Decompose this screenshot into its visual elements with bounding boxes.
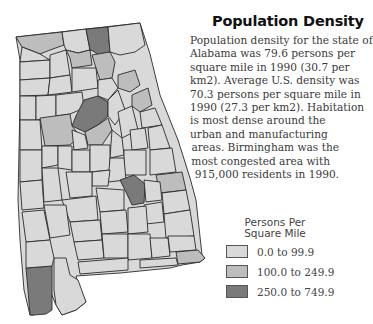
county-lowndes — [96, 188, 124, 212]
county-marengo — [42, 168, 62, 202]
county-cullman — [72, 68, 98, 92]
desc-line: Population density for the state of — [190, 34, 340, 47]
county-greene — [42, 146, 58, 168]
description-text: Population density for the state of Alab… — [190, 34, 340, 181]
desc-line: 915,000 residents in 1990. — [190, 168, 340, 181]
legend-item-high: 250.0 to 749.9 — [226, 285, 334, 298]
desc-line: most congested area with — [190, 155, 340, 168]
legend-swatch-mid — [226, 265, 248, 278]
legend-label: 250.0 to 749.9 — [257, 286, 334, 298]
desc-line: Alabama was 79.6 persons per — [190, 47, 340, 60]
legend-item-mid: 100.0 to 249.9 — [226, 265, 334, 278]
desc-line: 70.3 persons per square mile in — [190, 88, 340, 101]
county-coffee — [128, 234, 152, 260]
county-macon — [144, 180, 162, 202]
county-henry — [168, 236, 196, 252]
county-chambers — [150, 148, 176, 175]
county-pike — [128, 206, 148, 234]
desc-line: km2). Average U.S. density was — [190, 74, 340, 87]
county-butler — [100, 210, 128, 234]
county-limestone — [62, 29, 90, 53]
desc-line: 1990 (27.3 per km2). Habitation — [190, 101, 340, 114]
desc-line: areas. Birmingham was the — [190, 141, 340, 154]
county-clay — [130, 128, 148, 150]
county-autauga — [92, 170, 110, 186]
legend-title: Persons Per Square Mile — [225, 217, 325, 239]
county-lamar — [20, 96, 36, 120]
county-hale — [58, 146, 72, 170]
county-barbour — [164, 210, 194, 238]
legend-label: 100.0 to 249.9 — [257, 266, 334, 278]
county-crenshaw — [102, 234, 128, 258]
county-dale — [150, 238, 170, 258]
county-clarke-s — [26, 240, 54, 268]
county-winston — [48, 75, 72, 95]
map-title: Population Density — [212, 13, 364, 29]
legend-item-low: 0.0 to 99.9 — [226, 245, 314, 258]
legend-label: 0.0 to 99.9 — [257, 246, 314, 258]
county-lawrence — [50, 50, 70, 78]
county-tallapoosa — [124, 150, 146, 175]
county-sumter — [20, 150, 42, 182]
county-marion — [20, 78, 50, 96]
county-perry — [72, 150, 90, 172]
county-mobile — [26, 266, 52, 315]
desc-line: square mile in 1990 (30.7 per — [190, 61, 340, 74]
legend-swatch-high — [226, 285, 248, 298]
county-choctaw — [20, 180, 44, 210]
desc-line: is most dense around the — [190, 114, 340, 127]
county-monroe — [70, 220, 102, 242]
desc-line: urban and manufacturing — [190, 128, 340, 141]
county-chilton — [90, 145, 110, 172]
county-franklin — [20, 60, 50, 80]
county-dallas — [66, 172, 92, 198]
county-conecuh — [74, 240, 104, 260]
legend-swatch-low — [226, 245, 248, 258]
county-pickens — [20, 120, 42, 150]
